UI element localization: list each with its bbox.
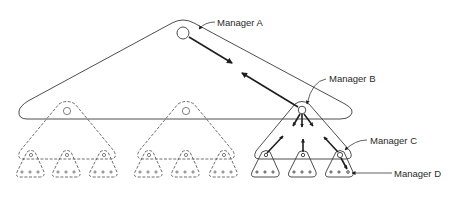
manager-a-node bbox=[177, 27, 189, 39]
manager-d-node bbox=[347, 171, 350, 174]
top-level-group bbox=[19, 20, 352, 119]
manager-d-label: Manager D bbox=[394, 168, 441, 179]
labels: Manager A Manager B Manager C Manager D bbox=[199, 17, 441, 179]
manager-c-node bbox=[337, 152, 342, 157]
manager-a-label: Manager A bbox=[217, 17, 264, 28]
manager-c-label: Manager C bbox=[370, 135, 417, 146]
manager-b-label: Manager B bbox=[329, 73, 375, 84]
mid-level-group-middle bbox=[138, 102, 235, 160]
communication-arrows bbox=[189, 37, 347, 169]
manager-b-node bbox=[298, 106, 306, 114]
mid-level-group-left bbox=[19, 102, 116, 160]
bottom-level-groups bbox=[16, 151, 353, 178]
linking-pin-diagram: Manager A Manager B Manager C Manager D bbox=[0, 0, 453, 199]
